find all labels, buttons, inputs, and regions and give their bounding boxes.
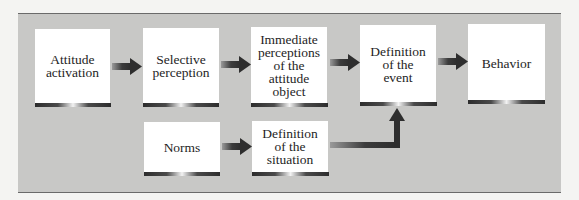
node-label: Norms	[164, 141, 201, 154]
node-behavior: Behavior	[468, 24, 545, 100]
node-underline	[468, 100, 545, 104]
node-label: Behavior	[482, 57, 532, 70]
node-underline	[251, 103, 328, 107]
node-underline	[143, 103, 219, 107]
node-immediate-perceptions: Immediate perceptions of the attitude ob…	[251, 27, 327, 103]
arrow-icon	[330, 54, 360, 71]
node-label: Selective perception	[153, 53, 210, 79]
node-underline	[35, 103, 111, 107]
node-label: Definition of the situation	[262, 127, 318, 166]
arrow-icon	[221, 56, 251, 73]
node-underline	[252, 172, 329, 176]
node-norms: Norms	[144, 122, 220, 172]
node-label: Attitude activation	[46, 53, 99, 79]
arrow-icon	[222, 138, 252, 155]
node-underline	[144, 172, 220, 176]
elbow-arrow-icon	[330, 108, 405, 148]
node-definition-of-event: Definition of the event	[360, 25, 436, 102]
node-label: Immediate perceptions of the attitude ob…	[258, 33, 320, 98]
arrow-icon	[438, 53, 468, 70]
node-attitude-activation: Attitude activation	[35, 29, 110, 103]
node-underline	[360, 102, 437, 106]
arrow-icon	[112, 58, 142, 75]
node-selective-perception: Selective perception	[143, 28, 219, 103]
node-definition-of-situation: Definition of the situation	[252, 121, 328, 172]
node-label: Definition of the event	[370, 45, 426, 84]
